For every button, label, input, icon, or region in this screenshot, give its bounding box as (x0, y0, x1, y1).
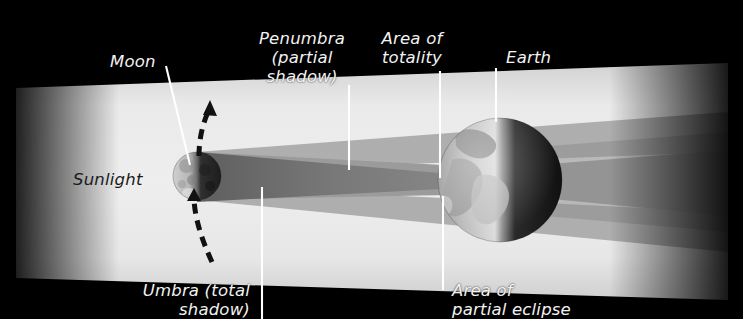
label-umbra: Umbra (total shadow) (110, 281, 250, 319)
earth-continents (438, 118, 562, 242)
label-moon: Moon (110, 52, 156, 71)
label-sunlight: Sunlight (73, 170, 143, 189)
diagram-artwork (0, 0, 743, 319)
moon (173, 152, 221, 200)
eclipse-diagram: Moon Penumbra (partial shadow) Area of t… (0, 0, 743, 319)
label-earth: Earth (506, 48, 551, 67)
label-area-of-partial-eclipse: Area of partial eclipse (452, 281, 571, 319)
label-penumbra: Penumbra (partial shadow) (250, 29, 354, 86)
earth (438, 118, 562, 242)
label-area-of-totality: Area of totality (377, 29, 447, 67)
